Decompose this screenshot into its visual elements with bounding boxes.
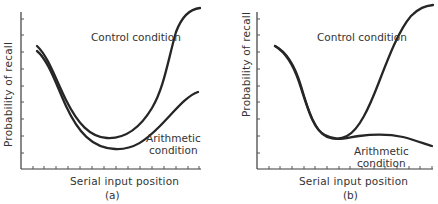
control-curve-a <box>37 8 200 138</box>
control-annotation-b: Control condition <box>317 31 407 43</box>
arithmetic-annotation-b: Arithmetic condition <box>354 145 409 169</box>
x-axis-label-a: Serial input position <box>70 175 179 187</box>
arithmetic-annotation-a-line1: Arithmetic <box>146 132 201 144</box>
y-axis-label-a: Probability of recall <box>2 42 14 147</box>
control-annotation-a: Control condition <box>91 31 181 43</box>
panel-label-b: (b) <box>343 189 358 201</box>
y-axis-label-b: Probability of recall <box>240 12 252 117</box>
arithmetic-annotation-a: Arithmetic condition <box>146 132 201 156</box>
control-curve-b <box>275 5 433 139</box>
arithmetic-annotation-a-line2: condition <box>146 144 201 156</box>
x-axis-label-b: Serial input position <box>299 175 408 187</box>
chart-panel-b: Probability of recall Serial input posit… <box>219 0 438 204</box>
arithmetic-annotation-b-line1: Arithmetic <box>354 145 409 157</box>
panel-label-a: (a) <box>105 189 120 201</box>
chart-panel-a: Probability of recall Serial input posit… <box>0 0 219 204</box>
arithmetic-annotation-b-line2: condition <box>354 157 409 169</box>
